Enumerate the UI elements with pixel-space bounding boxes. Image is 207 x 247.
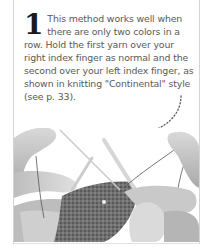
knitting-photo — [14, 128, 199, 242]
hands-knitting-image — [14, 128, 199, 242]
step-block: 1 This method works well when there are … — [24, 12, 196, 103]
step-text: This method works well when there are on… — [24, 13, 193, 102]
step-number: 1 — [24, 13, 43, 37]
